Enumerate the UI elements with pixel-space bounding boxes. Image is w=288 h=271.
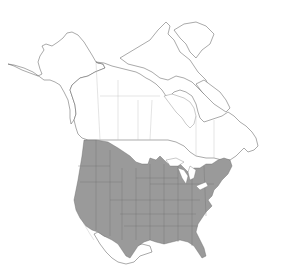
range-map: [0, 0, 288, 271]
baffin-island: [196, 80, 230, 112]
